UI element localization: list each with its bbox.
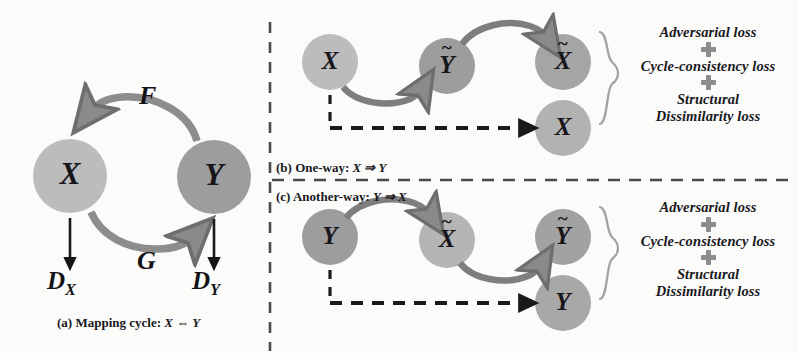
plus-separator [628, 249, 788, 266]
plus-icon [701, 75, 716, 90]
mapping-label-F: F [139, 81, 156, 111]
loss-item-structural-line2: Dissimilarity loss [628, 108, 788, 125]
loss-item-cycle-consistency: Cycle-consistency loss [628, 58, 788, 75]
caption-panel-c-math: Y ⇒ X [373, 189, 407, 204]
discriminator-label-dx: DX [47, 267, 76, 300]
node-circle-b-xtilde [535, 34, 591, 90]
plus-separator [628, 74, 788, 91]
discriminator-label-dx-sub: X [65, 280, 76, 299]
mapping-label-G: G [137, 246, 156, 276]
plus-separator [628, 41, 788, 58]
loss-item-structural-line1: Structural [628, 266, 788, 283]
caption-panel-c: (c) Another-way: Y ⇒ X [276, 189, 407, 205]
edge-arc-b-x-to-ytilde [343, 87, 423, 103]
node-circle-c-ytilde [535, 209, 591, 265]
panel-a-graphics [33, 97, 251, 263]
loss-item-adversarial: Adversarial loss [628, 199, 788, 216]
brace-b [600, 32, 618, 124]
loss-item-structural-line2: Dissimilarity loss [628, 283, 788, 300]
plus-icon [701, 217, 716, 232]
loss-item-cycle-consistency: Cycle-consistency loss [628, 233, 788, 250]
caption-panel-a: (a) Mapping cycle: X ⇔ Y [57, 315, 200, 331]
loss-item-structural-line1: Structural [628, 91, 788, 108]
node-circle-b-ytilde [419, 38, 475, 94]
edge-arc-c-xtilde-to-ytilde [460, 263, 542, 280]
edge-arc-b-ytilde-to-xtilde [462, 23, 549, 44]
loss-item-adversarial: Adversarial loss [628, 24, 788, 41]
mapping-arc-G [91, 212, 196, 249]
discriminator-label-dy-main: D [192, 267, 210, 294]
node-circle-a-y [177, 140, 251, 214]
plus-icon [701, 250, 716, 265]
node-circle-c-xtilde [419, 212, 475, 268]
loss-list-panel-c: Adversarial loss Cycle-consistency loss … [628, 199, 788, 299]
caption-panel-b-math: X ⇒ Y [353, 160, 387, 175]
panel-c-graphics [302, 199, 618, 331]
caption-panel-b: (b) One-way: X ⇒ Y [276, 160, 386, 176]
node-circle-b-x [302, 34, 358, 90]
figure-root: X Y F G DX DY (a) Mapping cycle: X ⇔ Y X… [0, 0, 798, 353]
caption-panel-c-prefix: (c) Another-way: [276, 189, 373, 204]
discriminator-label-dy: DY [192, 267, 220, 300]
discriminator-label-dx-main: D [47, 267, 65, 294]
node-circle-b-xreal [535, 100, 591, 156]
node-circle-c-yreal [535, 275, 591, 331]
loss-list-panel-b: Adversarial loss Cycle-consistency loss … [628, 24, 788, 124]
caption-panel-a-prefix: (a) Mapping cycle: [57, 315, 164, 330]
plus-separator [628, 216, 788, 233]
caption-panel-b-prefix: (b) One-way: [276, 160, 353, 175]
caption-panel-a-math: X ⇔ Y [164, 315, 200, 330]
brace-c [600, 207, 618, 299]
discriminator-label-dy-sub: Y [210, 280, 220, 299]
node-circle-a-x [33, 139, 107, 213]
edge-dashed-c-y-to-yreal [330, 270, 528, 303]
plus-icon [701, 42, 716, 57]
panel-b-graphics [302, 23, 618, 156]
